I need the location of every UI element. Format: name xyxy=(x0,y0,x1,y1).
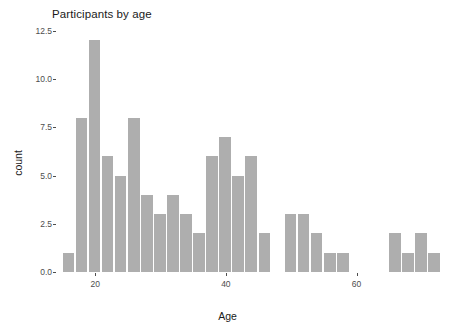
x-axis-tick-mark xyxy=(95,273,96,276)
histogram-bar xyxy=(193,233,205,272)
histogram-bar xyxy=(102,156,114,272)
chart-container: Participants by age count Age 0.02.55.07… xyxy=(0,0,455,326)
page-title: Participants by age xyxy=(52,8,152,20)
y-axis-tick-label: 2.5 xyxy=(40,219,52,229)
plot-panel xyxy=(56,25,448,272)
x-axis-tick-mark xyxy=(226,273,227,276)
histogram-bar xyxy=(298,214,310,272)
histogram-bar xyxy=(154,214,166,272)
y-axis: 0.02.55.07.510.012.5 xyxy=(0,25,52,272)
histogram-bar xyxy=(167,195,179,272)
histogram-bar xyxy=(428,253,440,272)
histogram-bar xyxy=(89,40,101,272)
histogram-bar xyxy=(245,156,257,272)
histogram-bar xyxy=(63,253,75,272)
histogram-bar xyxy=(337,253,349,272)
y-axis-tick-label: 7.5 xyxy=(40,122,52,132)
x-axis: 204060 xyxy=(56,272,448,294)
histogram-bar xyxy=(402,253,414,272)
histogram-bar xyxy=(415,233,427,272)
x-axis-tick-label: 20 xyxy=(90,279,99,289)
histogram-bar xyxy=(128,118,140,272)
histogram-bar xyxy=(180,214,192,272)
histogram-bar xyxy=(285,214,297,272)
histogram-bar xyxy=(76,118,88,272)
histogram-bar xyxy=(219,137,231,272)
histogram-bar xyxy=(389,233,401,272)
x-axis-tick-mark xyxy=(357,273,358,276)
x-axis-tick-label: 40 xyxy=(221,279,230,289)
y-axis-tick-label: 0.0 xyxy=(40,267,52,277)
y-axis-tick-label: 12.5 xyxy=(35,26,52,36)
x-axis-tick-label: 60 xyxy=(352,279,361,289)
y-axis-tick-label: 10.0 xyxy=(35,74,52,84)
histogram-bar xyxy=(141,195,153,272)
histogram-bar xyxy=(311,233,323,272)
histogram-bar xyxy=(259,233,271,272)
x-axis-title: Age xyxy=(0,310,455,322)
y-axis-tick-label: 5.0 xyxy=(40,171,52,181)
histogram-bar xyxy=(232,176,244,272)
histogram-bar xyxy=(206,156,218,272)
histogram-bar xyxy=(324,253,336,272)
histogram-bar xyxy=(115,176,127,272)
